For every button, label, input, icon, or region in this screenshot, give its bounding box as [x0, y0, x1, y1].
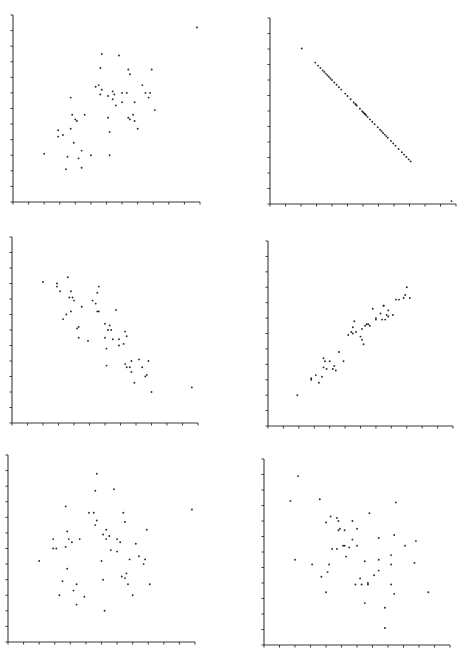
data-point — [134, 101, 136, 103]
data-point — [58, 594, 60, 596]
data-point — [132, 114, 134, 116]
data-point — [363, 343, 365, 345]
data-point — [350, 98, 352, 100]
data-point — [98, 84, 100, 86]
data-point — [81, 150, 83, 152]
data-point — [344, 93, 346, 95]
data-point — [196, 27, 198, 29]
data-point — [138, 555, 140, 557]
data-point — [137, 128, 139, 130]
data-point — [387, 316, 389, 318]
data-point — [96, 473, 98, 475]
data-point — [78, 337, 80, 339]
data-point — [364, 560, 366, 562]
data-point — [317, 65, 319, 67]
data-point — [353, 102, 355, 104]
data-point — [403, 154, 405, 156]
data-point — [68, 538, 70, 540]
data-point — [344, 529, 346, 531]
data-point — [134, 120, 136, 122]
data-point — [146, 529, 148, 531]
data-point — [118, 345, 120, 347]
data-point — [70, 290, 72, 292]
data-point — [364, 602, 366, 604]
data-point — [121, 101, 123, 103]
data-point — [337, 529, 339, 531]
data-point — [126, 366, 128, 368]
data-point — [96, 520, 98, 522]
data-point — [93, 512, 95, 514]
data-point — [384, 134, 386, 136]
data-point — [378, 570, 380, 572]
data-point — [191, 386, 193, 388]
data-point — [108, 535, 110, 537]
data-point — [390, 140, 392, 142]
data-point — [98, 310, 100, 312]
data-point — [310, 377, 312, 379]
data-point — [427, 591, 429, 593]
data-point — [325, 591, 327, 593]
data-point — [62, 134, 64, 136]
data-point — [104, 610, 106, 612]
data-point — [124, 363, 126, 365]
data-point — [146, 374, 148, 376]
data-point — [42, 281, 44, 283]
data-point — [371, 121, 373, 123]
data-point — [78, 157, 80, 159]
panel-5-scatter-plot — [6, 455, 196, 645]
data-point — [107, 329, 109, 331]
data-point — [347, 334, 349, 336]
data-point — [301, 48, 303, 50]
data-point — [382, 132, 384, 134]
data-point — [133, 382, 135, 384]
data-point — [110, 329, 112, 331]
data-point — [321, 376, 323, 378]
data-point — [393, 593, 395, 595]
data-point — [102, 534, 104, 536]
data-point — [395, 145, 397, 147]
data-point — [367, 116, 369, 118]
data-point — [345, 556, 347, 558]
data-point — [125, 572, 127, 574]
data-point — [127, 69, 129, 71]
data-point — [129, 558, 131, 560]
data-point — [144, 558, 146, 560]
data-point — [365, 114, 367, 116]
data-point — [76, 604, 78, 606]
data-point — [123, 343, 125, 345]
data-point — [84, 114, 86, 116]
data-point — [409, 297, 411, 299]
data-point — [331, 548, 333, 550]
data-point — [323, 366, 325, 368]
data-point — [104, 323, 106, 325]
data-point — [355, 331, 357, 333]
data-point — [379, 129, 381, 131]
data-point — [360, 336, 362, 338]
data-point — [369, 118, 371, 120]
data-point — [73, 590, 75, 592]
data-point — [105, 529, 107, 531]
data-point — [333, 365, 335, 367]
data-point — [68, 297, 70, 299]
data-point — [95, 303, 97, 305]
data-point — [112, 90, 114, 92]
data-point — [106, 365, 108, 367]
data-point — [112, 98, 114, 100]
data-point — [296, 394, 298, 396]
panel-1-scatter-plot — [11, 15, 201, 205]
data-point — [450, 200, 452, 202]
data-point — [107, 117, 109, 119]
data-point — [151, 391, 153, 393]
data-point — [332, 368, 334, 370]
data-point — [329, 78, 331, 80]
scatter-figure — [0, 0, 464, 654]
data-point — [320, 576, 322, 578]
data-point — [121, 576, 123, 578]
data-point — [101, 89, 103, 91]
data-point — [378, 537, 380, 539]
data-point — [70, 128, 72, 130]
data-point — [289, 500, 291, 502]
data-point — [381, 130, 383, 132]
data-point — [392, 314, 394, 316]
data-point — [124, 577, 126, 579]
